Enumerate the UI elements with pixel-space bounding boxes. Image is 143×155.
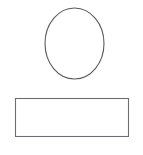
canvas-background: [0, 0, 143, 155]
figure-svg: [0, 0, 143, 155]
diagram-canvas: [0, 0, 143, 155]
